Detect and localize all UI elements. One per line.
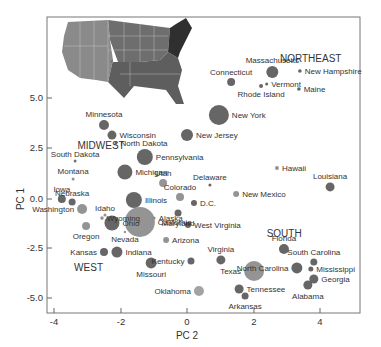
svg-text:-2: -2 [117,316,125,327]
y-axis-label: PC 1 [15,187,26,210]
data-point [181,129,193,141]
point-label: North Carolina [237,264,289,273]
point-label: Rhode Island [237,90,284,99]
point-label: Mississippi [316,265,355,274]
point-label: Colorado [164,183,197,192]
point-label: Nevada [111,235,139,244]
data-point [291,262,302,273]
point-label: Kentucky [152,257,185,266]
data-point [191,200,197,206]
x-tick-labels: -4 -2 0 2 4 [50,316,323,327]
svg-text:2.5: 2.5 [30,142,43,153]
point-label: Arizona [172,236,200,245]
point-label: Montana [58,167,90,176]
point-label: Oregon [73,232,100,241]
point-label: Illinois [145,196,167,205]
data-point [99,120,109,130]
data-point [137,149,153,165]
point-label: Connecticut [210,68,253,77]
point-label: Vermont [271,80,302,89]
point-label: New Jersey [196,131,238,140]
region-label: NORTHEAST [280,53,342,64]
point-label: New York [232,111,267,120]
point-label: Tennessee [247,285,286,294]
data-point [209,105,229,125]
point-label: Utah [155,169,172,178]
y-tick-labels: 5.0 2.5 0.0 -2.5 -5.0 [27,92,43,303]
point-label: Oklahoma [154,287,191,296]
point-label: New Hampshire [305,67,362,76]
data-point [126,192,142,208]
svg-text:-4: -4 [50,316,58,327]
x-axis-label: PC 2 [176,330,199,341]
data-point [100,248,108,256]
point-label: Indiana [125,248,152,257]
point-label: Georgia [321,275,350,284]
data-point [235,285,244,294]
data-point [208,183,211,186]
svg-text:4: 4 [317,316,322,327]
point-label: Pennsylvania [156,153,204,162]
point-label: Alabama [292,292,324,301]
point-label: Hawaii [282,164,306,173]
point-label: Minnesota [86,110,123,119]
data-point [216,255,225,264]
point-label: Idaho [95,204,116,213]
data-point [265,83,268,86]
svg-text:2: 2 [251,316,256,327]
data-point [194,286,204,296]
point-label: Arkansas [228,302,261,311]
data-point [77,204,87,214]
data-point [72,177,75,180]
point-label: South Carolina [287,248,340,257]
data-point [74,160,77,163]
region-label: WEST [74,262,103,273]
data-point [124,231,126,233]
data-point [303,281,312,290]
point-label: D.C. [200,199,216,208]
point-label: Missouri [136,270,166,279]
point-label: California [158,218,192,227]
data-point [326,182,335,191]
point-label: West Virginia [194,221,241,230]
point-label: North Dakota [120,139,168,148]
data-point [163,237,169,243]
data-point [275,166,279,170]
data-point [298,69,302,73]
region-label: SOUTH [267,228,302,239]
point-label: Nebraska [55,189,90,198]
svg-text:0.0: 0.0 [30,193,43,204]
point-label: Washington [32,205,74,214]
data-point [227,78,235,86]
pca-scatter-chart: 5.0 2.5 0.0 -2.5 -5.0 -4 -2 0 2 4 PC 2 P… [0,0,381,347]
point-label: Virginia [208,245,235,254]
data-point [111,247,122,258]
data-point [259,84,263,88]
point-label: Kansas [70,248,97,257]
svg-text:-2.5: -2.5 [27,242,43,253]
point-label: Delaware [193,173,227,182]
point-label: Maine [304,85,326,94]
point-label: New Mexico [242,190,286,199]
data-point [107,131,116,140]
data-point [187,257,194,264]
point-label: Ohio [122,219,139,228]
point-label: South Dakota [51,150,100,159]
data-point [117,165,132,180]
region-label: MIDWEST [77,140,124,151]
data-point [233,191,239,197]
svg-text:-5.0: -5.0 [27,292,43,303]
data-point [266,66,278,78]
svg-text:5.0: 5.0 [30,92,43,103]
data-point [82,222,90,230]
data-point [100,216,104,220]
data-point [308,266,313,271]
svg-text:0: 0 [184,316,189,327]
point-label: Louisiana [313,172,348,181]
data-point [176,193,184,201]
